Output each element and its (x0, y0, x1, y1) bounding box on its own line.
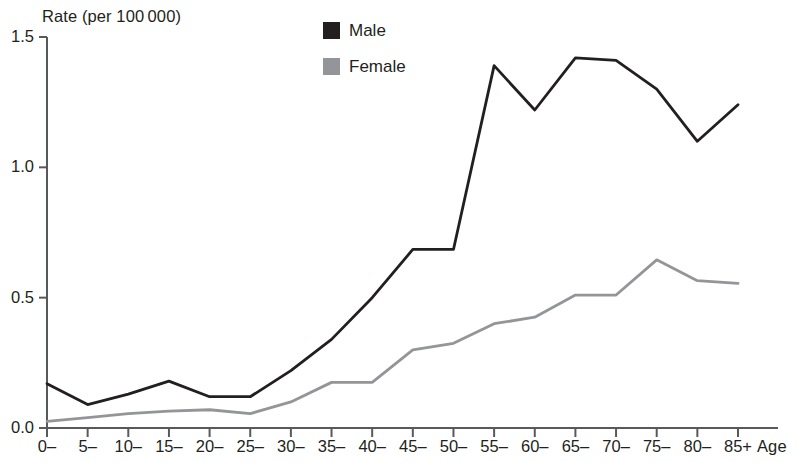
female-swatch-icon (323, 58, 340, 75)
series-line-male (47, 58, 738, 405)
male-swatch-icon (323, 22, 340, 39)
y-axis-ticks (39, 37, 47, 428)
axis-lines (47, 37, 778, 428)
data-series-lines (47, 58, 738, 422)
legend-item-male: Male (323, 22, 386, 39)
x-axis-ticks (47, 428, 738, 437)
legend-item-female: Female (323, 58, 406, 75)
series-line-female (47, 260, 738, 422)
legend-label-male: Male (349, 22, 386, 39)
legend-label-female: Female (349, 58, 406, 75)
chart-figure: Rate (per 100 000) Age 0.00.51.01.5 0–5–… (0, 0, 803, 462)
